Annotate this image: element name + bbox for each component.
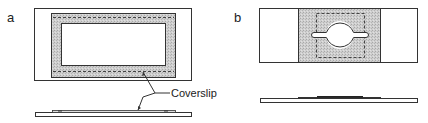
coverslip-side	[53, 111, 176, 113]
panel-b-top-view	[260, 9, 418, 63]
callout-line-bottom	[138, 93, 155, 110]
panel-a: a Coverslip	[7, 9, 217, 117]
panel-a-top-view	[35, 9, 192, 81]
panel-b-label: b	[234, 10, 241, 25]
slide-side	[36, 113, 192, 117]
panel-a-side-view	[36, 111, 192, 117]
panel-a-label: a	[7, 10, 15, 25]
panel-b: b	[234, 9, 418, 103]
panel-b-side-view	[261, 96, 418, 103]
sample-layer	[317, 96, 363, 98]
figure: a Coverslip b	[0, 0, 428, 123]
frame-window	[62, 24, 166, 66]
slide-side	[261, 99, 418, 103]
callout-label: Coverslip	[171, 87, 217, 99]
